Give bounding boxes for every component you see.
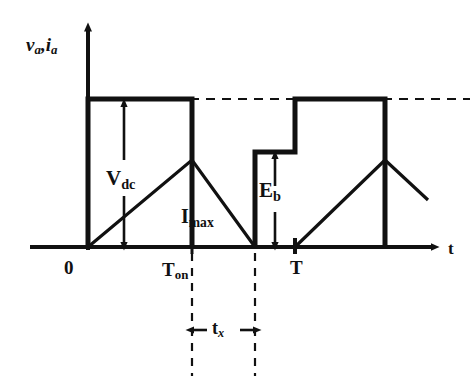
origin-label: 0 — [64, 258, 74, 277]
y-axis-label-v-sub: a — [34, 42, 40, 57]
waveform-svg — [0, 0, 476, 390]
eb-label-main: E — [259, 178, 273, 202]
vdc-label-main: V — [106, 166, 121, 190]
eb-label: Eb — [259, 180, 281, 201]
current-ramp-second — [295, 160, 428, 247]
ton-label: Ton — [162, 260, 188, 279]
y-axis-label-i-sub: a — [51, 42, 57, 57]
period-label: T — [290, 258, 303, 277]
ton-label-main: T — [162, 259, 175, 280]
vdc-label-sub: dc — [121, 176, 135, 192]
waveform-figure: va,ia t 0 Vdc Imax Eb Ton T tx — [0, 0, 476, 390]
vdc-label: Vdc — [106, 168, 135, 189]
ton-label-sub: on — [175, 267, 189, 282]
tx-label-sub: x — [218, 326, 224, 340]
tx-guide-lines — [192, 253, 255, 376]
imax-label: Imax — [181, 206, 214, 226]
current-waveform — [88, 160, 428, 247]
x-axis-label: t — [448, 240, 454, 257]
tx-label: tx — [212, 319, 224, 337]
eb-label-sub: b — [273, 188, 281, 204]
imax-label-main: I — [181, 205, 189, 227]
y-axis-label: va,ia — [26, 35, 57, 54]
imax-label-sub: max — [189, 215, 214, 230]
